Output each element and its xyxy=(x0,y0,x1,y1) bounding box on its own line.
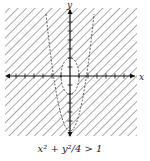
inequality-graph: y x xyxy=(0,0,150,161)
y-axis-label: y xyxy=(66,0,73,10)
x-axis-label: x xyxy=(139,72,144,82)
inequality-caption: x² + y²/4 > 1 xyxy=(0,143,140,154)
